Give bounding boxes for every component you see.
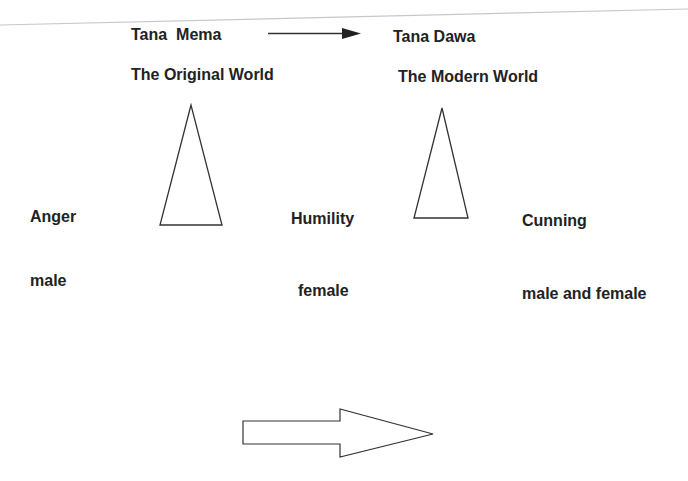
tana-dawa-label: Tana Dawa	[393, 29, 475, 45]
original-world-label: The Original World	[131, 67, 274, 83]
scan-edge-line	[0, 9, 688, 25]
modern-world-label: The Modern World	[398, 69, 538, 85]
gender-male-and-female-label: male and female	[522, 286, 647, 302]
tana-mema-label: Tana Mema	[131, 27, 221, 43]
gender-male-label: male	[30, 273, 66, 289]
block-arrow-right-icon	[243, 409, 433, 457]
diagram-canvas: Tana Mema The Original World Tana Dawa T…	[0, 0, 688, 481]
gender-female-label: female	[298, 283, 349, 299]
quality-cunning-label: Cunning	[522, 213, 587, 229]
triangle-original-world-icon	[160, 105, 222, 225]
transition-arrow-icon	[268, 28, 361, 39]
quality-anger-label: Anger	[30, 209, 76, 225]
quality-humility-label: Humility	[291, 211, 354, 227]
triangle-modern-world-icon	[414, 108, 468, 218]
diagram-shapes	[0, 0, 688, 481]
